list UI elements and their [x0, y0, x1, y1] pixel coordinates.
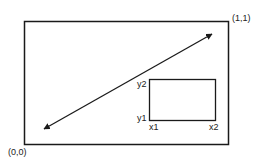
label-y2: y2 [137, 79, 147, 89]
inner-rectangle [150, 80, 216, 121]
label-x2: x2 [209, 122, 219, 132]
label-y1: y1 [137, 113, 147, 123]
label-bottom-left: (0,0) [8, 147, 27, 157]
label-x1: x1 [149, 122, 159, 132]
diagonal-double-arrow [44, 34, 212, 129]
label-top-right: (1,1) [232, 13, 251, 23]
coordinate-diagram: (1,1) (0,0) y2 y1 x1 x2 [0, 0, 263, 164]
